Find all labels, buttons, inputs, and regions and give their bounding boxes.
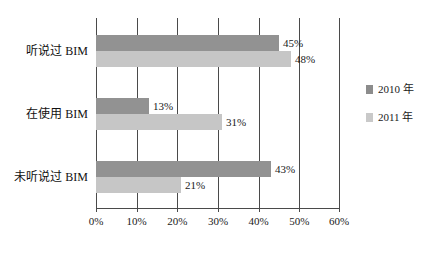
legend-label-2010: 2010 年	[378, 82, 414, 96]
x-tick-label-20: 20%	[167, 214, 187, 228]
bar-value-group0-series0: 45%	[283, 35, 303, 51]
bar-group2-series1	[96, 177, 181, 193]
plot-area: 45% 48% 13% 31% 43% 21%	[96, 18, 340, 208]
category-label-2: 未听说过 BIM	[14, 170, 88, 184]
x-tick-label-0: 0%	[89, 214, 104, 228]
bar-group1-series1	[96, 114, 222, 130]
bar-group0-series0	[96, 35, 279, 51]
legend-swatch-icon-2011	[366, 113, 373, 122]
tick-mark-40	[259, 208, 260, 212]
bar-value-group1-series0: 13%	[153, 98, 173, 114]
bar-group1-series0	[96, 98, 149, 114]
tick-mark-20	[177, 208, 178, 212]
gridline-60	[339, 18, 340, 208]
bar-group2-series0	[96, 161, 271, 177]
category-label-1: 在使用 BIM	[26, 107, 88, 121]
x-tick-label-60: 60%	[329, 214, 349, 228]
tick-mark-0	[96, 208, 97, 212]
tick-mark-30	[218, 208, 219, 212]
x-tick-label-30: 30%	[208, 214, 228, 228]
legend-swatch-icon-2010	[366, 85, 373, 94]
bar-value-group2-series1: 21%	[185, 177, 205, 193]
tick-mark-50	[299, 208, 300, 212]
bar-value-group1-series1: 31%	[226, 114, 246, 130]
bar-group0-series1	[96, 51, 291, 67]
x-tick-label-10: 10%	[127, 214, 147, 228]
tick-mark-60	[339, 208, 340, 212]
x-tick-label-40: 40%	[249, 214, 269, 228]
tick-mark-10	[137, 208, 138, 212]
bar-value-group0-series1: 48%	[295, 51, 315, 67]
bar-value-group2-series0: 43%	[275, 161, 295, 177]
x-tick-label-50: 50%	[289, 214, 309, 228]
bar-chart: 45% 48% 13% 31% 43% 21% 听说过 BIM 在使用 BIM …	[0, 0, 440, 253]
legend-label-2011: 2011 年	[378, 110, 413, 124]
category-label-0: 听说过 BIM	[26, 44, 88, 58]
